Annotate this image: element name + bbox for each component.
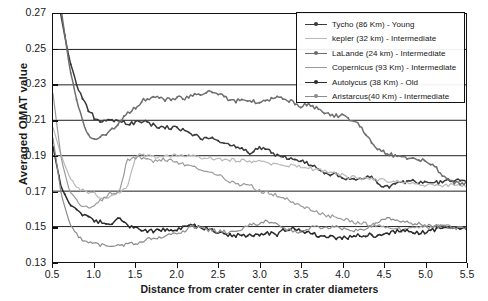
data-point xyxy=(82,98,84,100)
data-point xyxy=(382,149,384,151)
data-point xyxy=(447,178,449,180)
data-point xyxy=(394,232,396,234)
data-point xyxy=(217,94,219,96)
data-point xyxy=(359,126,361,128)
line-dot-marker-icon xyxy=(305,92,327,101)
data-point xyxy=(377,149,379,151)
data-point xyxy=(170,128,172,130)
x-axis-title: Distance from crater center in crater di… xyxy=(52,283,467,295)
x-tick-mark xyxy=(260,263,261,268)
data-point xyxy=(270,152,272,154)
legend-item[interactable]: Copernicus (93 Km) - Intermediate xyxy=(297,61,464,76)
data-point xyxy=(188,131,190,133)
data-point xyxy=(264,100,266,102)
data-point xyxy=(430,229,432,231)
data-point xyxy=(229,144,231,146)
data-point xyxy=(141,230,143,232)
y-tick-mark xyxy=(52,120,58,121)
data-point xyxy=(135,120,137,122)
data-point xyxy=(329,235,331,237)
data-point xyxy=(353,120,355,122)
data-point xyxy=(441,227,443,229)
data-point xyxy=(382,186,384,188)
data-point xyxy=(93,138,95,140)
data-point xyxy=(200,94,202,96)
data-point xyxy=(152,232,154,234)
data-point xyxy=(141,101,143,103)
data-point xyxy=(105,223,107,225)
legend-item[interactable]: LaLande (24 km) - Intermediate xyxy=(297,46,464,61)
data-point xyxy=(270,231,272,233)
data-point xyxy=(211,137,213,139)
data-point xyxy=(111,127,113,129)
data-point xyxy=(459,228,461,230)
data-point xyxy=(93,221,95,223)
data-point xyxy=(335,113,337,115)
data-point xyxy=(377,235,379,237)
y-tick-mark xyxy=(52,227,58,228)
x-tick-label: 4.0 xyxy=(323,268,363,280)
data-point xyxy=(82,119,84,121)
data-point xyxy=(341,177,343,179)
data-point xyxy=(306,105,308,107)
series-line xyxy=(53,94,466,231)
legend-item[interactable]: Tycho (86 Km) - Young xyxy=(297,17,464,32)
data-point xyxy=(377,182,379,184)
data-point xyxy=(318,108,320,110)
legend-item[interactable]: Aristarcus(40 Km) - Intermediate xyxy=(297,90,464,105)
data-point xyxy=(412,157,414,159)
legend-item-label: kepler (32 km) - Intermediate xyxy=(332,34,436,43)
data-point xyxy=(129,227,131,229)
series-line xyxy=(53,127,466,198)
data-point xyxy=(394,154,396,156)
x-tick-label: 1.0 xyxy=(74,268,114,280)
data-point xyxy=(406,158,408,160)
data-point xyxy=(164,100,166,102)
data-point xyxy=(64,193,66,195)
data-point xyxy=(288,101,290,103)
legend-item[interactable]: Autolycus (38 Km) - Old xyxy=(297,75,464,90)
data-point xyxy=(117,124,119,126)
data-point xyxy=(200,138,202,140)
data-point xyxy=(270,97,272,99)
data-point xyxy=(205,92,207,94)
data-point xyxy=(146,121,148,123)
data-point xyxy=(241,147,243,149)
legend-item-label: Autolycus (38 Km) - Old xyxy=(332,78,418,87)
data-point xyxy=(276,235,278,237)
data-point xyxy=(264,233,266,235)
legend-item[interactable]: kepler (32 km) - Intermediate xyxy=(297,32,464,47)
data-point xyxy=(306,161,308,163)
data-point xyxy=(99,121,101,123)
data-point xyxy=(176,230,178,232)
data-point xyxy=(312,105,314,107)
data-point xyxy=(111,223,113,225)
y-tick-mark xyxy=(52,13,58,14)
data-point xyxy=(430,164,432,166)
data-point xyxy=(105,134,107,136)
data-point xyxy=(424,233,426,235)
data-point xyxy=(253,151,255,153)
legend-item-label: Aristarcus(40 Km) - Intermediate xyxy=(332,92,449,101)
data-point xyxy=(211,92,213,94)
data-point xyxy=(229,233,231,235)
data-point xyxy=(441,175,443,177)
data-point xyxy=(253,235,255,237)
data-point xyxy=(418,159,420,161)
data-point xyxy=(205,137,207,139)
data-point xyxy=(341,238,343,240)
data-point xyxy=(223,96,225,98)
data-point xyxy=(188,97,190,99)
data-point xyxy=(99,219,101,221)
x-tick-label: 2.5 xyxy=(198,268,238,280)
data-point xyxy=(335,238,337,240)
data-point xyxy=(323,235,325,237)
data-point xyxy=(436,227,438,229)
data-point xyxy=(70,205,72,207)
legend-item-label: Tycho (86 Km) - Young xyxy=(332,20,414,29)
line-marker-icon xyxy=(305,34,327,43)
x-tick-mark xyxy=(426,263,427,268)
data-point xyxy=(135,226,137,228)
data-point xyxy=(436,180,438,182)
data-point xyxy=(312,165,314,167)
